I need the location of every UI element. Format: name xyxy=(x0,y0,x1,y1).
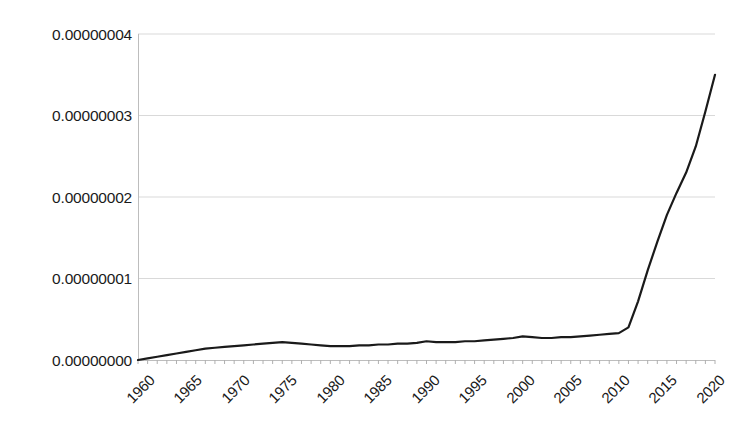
data-line-series xyxy=(138,75,715,360)
plot-area xyxy=(0,0,740,431)
chart-container: 0.00000004 0.00000003 0.00000002 0.00000… xyxy=(0,0,740,431)
x-axis-ticks xyxy=(138,360,715,364)
gridlines xyxy=(138,34,715,279)
